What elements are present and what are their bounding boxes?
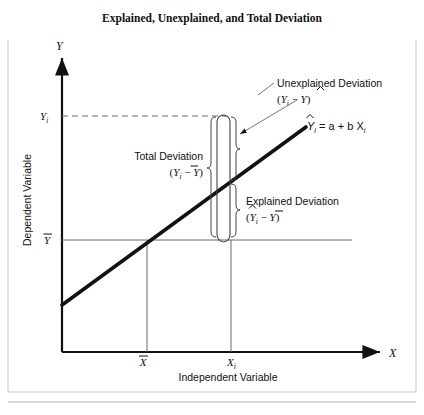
x-tick-xbar: X [139, 356, 148, 368]
regression-equation-hat-accent [307, 115, 314, 119]
svg-text:Xi: Xi [226, 356, 236, 371]
total-brace [207, 117, 216, 237]
x-tick-xi-subscript: i [234, 362, 236, 371]
unexplained-arrow [240, 100, 297, 134]
explained-formula: (Yi − Y) [246, 211, 280, 226]
diagram-canvas: Explained, Unexplained, and Total Deviat… [0, 0, 424, 415]
unexplained-label: Unexplained Deviation [277, 77, 382, 89]
svg-text:Yi: Yi [40, 110, 48, 125]
explained-brace [231, 184, 240, 237]
x-tick-xi: Xi [226, 356, 236, 371]
figure-frame [8, 40, 416, 392]
y-tick-yi: Yi [40, 110, 48, 125]
regression-equation-text: Yi = a + b Xi [307, 120, 366, 135]
total-annotation: Total Deviation (Yi − Y) [134, 150, 203, 181]
total-formula: (Yi − Y) [170, 166, 204, 181]
regression-equation-annotation: Yi = a + b Xi [307, 115, 366, 136]
explained-annotation: Explained Deviation (Yi − Y) [246, 195, 339, 226]
total-label: Total Deviation [134, 150, 203, 162]
y-tick-ybar: Y [44, 234, 53, 246]
y-tick-yi-subscript: i [46, 116, 48, 125]
unexplained-brace [231, 117, 240, 181]
y-axis-caption: Dependent Variable [21, 154, 33, 246]
y-axis-name-label: Y [56, 39, 64, 53]
x-axis-name-label: X [388, 346, 397, 360]
deviation-diagram-figure: Explained, Unexplained, and Total Deviat… [0, 0, 424, 415]
deviation-tube [217, 115, 230, 242]
x-tick-xbar-letter: X [139, 356, 148, 368]
y-tick-ybar-letter: Y [44, 234, 52, 246]
figure-title: Explained, Unexplained, and Total Deviat… [102, 12, 322, 25]
x-axis-caption: Independent Variable [178, 371, 277, 383]
explained-label: Explained Deviation [246, 195, 339, 207]
unexplained-leader-top [258, 83, 274, 95]
unexplained-formula: (Yi − Y) [277, 93, 311, 108]
